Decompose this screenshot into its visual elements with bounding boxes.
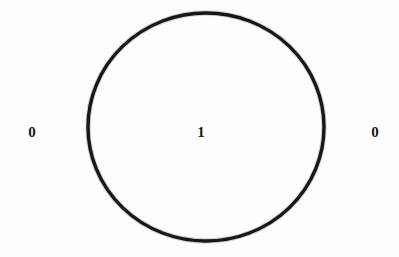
region-label-exterior-left: 0 — [24, 125, 40, 140]
region-label-exterior-right: 0 — [367, 125, 383, 140]
region-label-interior: 1 — [193, 125, 209, 140]
figure-canvas: 0 1 0 — [0, 0, 399, 257]
